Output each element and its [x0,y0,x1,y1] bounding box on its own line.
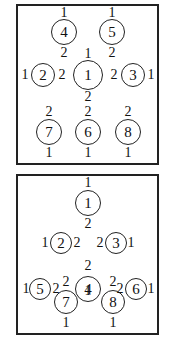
port-label: 2 [108,275,118,289]
node-top-6: 6 [75,119,101,145]
node-top-2: 2 [31,63,55,87]
port-label: 1 [61,316,71,330]
port-label: 1 [83,47,93,61]
node-top-8: 8 [115,119,141,145]
port-label: 1 [108,316,118,330]
node-top-3: 3 [121,63,145,87]
port-label: 1 [83,284,93,298]
port-label: 2 [59,46,69,60]
port-label: 2 [51,282,61,296]
port-label: 1 [40,236,50,250]
port-label: 2 [83,105,93,119]
port-label: 2 [123,105,133,119]
port-label: 2 [72,236,82,250]
node-top-1: 1 [73,60,103,90]
port-label: 1 [107,6,117,20]
node-bottom-1: 1 [75,190,101,216]
port-label: 2 [95,236,105,250]
port-label: 2 [61,275,71,289]
node-bottom-5: 5 [29,278,51,300]
node-top-5: 5 [99,19,125,45]
node-top-4: 4 [51,19,77,45]
port-label: 2 [107,46,117,60]
port-label: 2 [109,68,119,82]
port-label: 2 [83,259,93,273]
port-label: 1 [146,282,156,296]
node-bottom-3: 3 [105,232,127,254]
node-bottom-2: 2 [50,232,72,254]
port-label: 1 [59,6,69,20]
port-label: 2 [83,90,93,104]
port-label: 1 [146,68,156,82]
node-bottom-6: 6 [125,278,147,300]
port-label: 1 [83,176,93,190]
port-label: 2 [57,68,67,82]
port-label: 1 [21,282,31,296]
port-label: 1 [126,236,136,250]
port-label: 1 [123,146,133,160]
port-label: 1 [20,68,30,82]
port-label: 2 [83,217,93,231]
port-label: 2 [44,105,54,119]
port-label: 1 [44,146,54,160]
node-top-7: 7 [36,119,62,145]
port-label: 1 [83,146,93,160]
